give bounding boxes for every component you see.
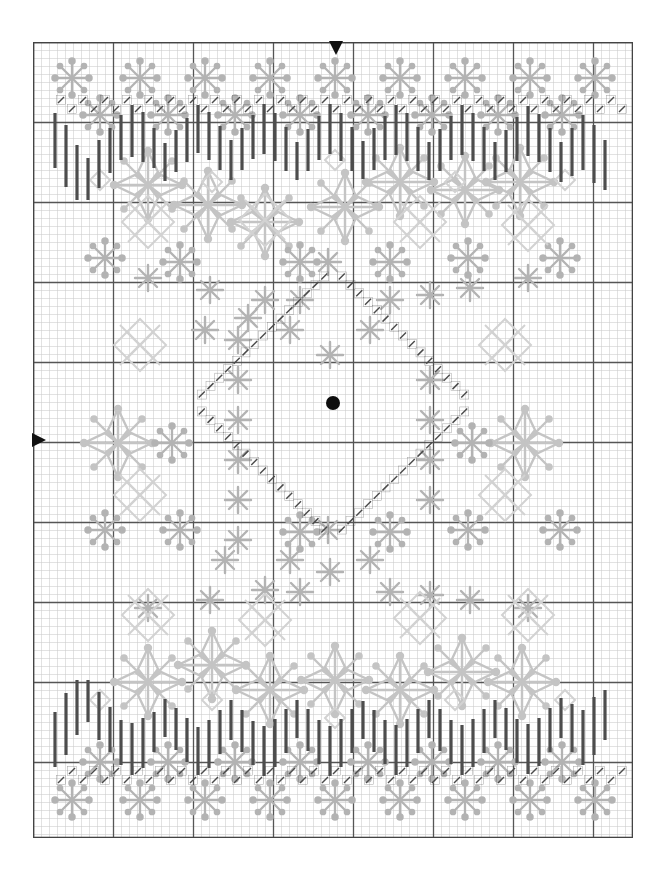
motif	[277, 317, 303, 343]
motif	[510, 780, 549, 819]
motif	[357, 547, 383, 573]
motif	[171, 168, 245, 242]
motif	[357, 317, 383, 343]
motif	[575, 780, 614, 819]
motif	[488, 406, 562, 480]
motif	[298, 643, 372, 717]
motif	[225, 487, 251, 513]
motif	[540, 510, 579, 549]
motif	[370, 512, 409, 551]
motif	[280, 512, 319, 551]
motif	[575, 58, 614, 97]
motif	[542, 95, 581, 134]
motif	[380, 58, 419, 97]
motif	[81, 406, 155, 480]
motif	[515, 265, 541, 291]
motif	[152, 423, 191, 462]
motif	[250, 780, 289, 819]
motif	[160, 510, 199, 549]
motif	[197, 277, 223, 303]
motif	[452, 423, 491, 462]
motif	[417, 447, 443, 473]
motif	[85, 510, 124, 549]
motif	[52, 58, 91, 97]
motif	[225, 367, 251, 393]
motif	[448, 238, 487, 277]
motif	[315, 249, 341, 275]
motif	[80, 95, 119, 134]
motif	[377, 579, 403, 605]
motif	[111, 645, 185, 719]
motif	[197, 587, 223, 613]
motif	[287, 579, 313, 605]
motif	[85, 238, 124, 277]
motif	[370, 242, 409, 281]
motif	[250, 58, 289, 97]
motif	[417, 367, 443, 393]
stitch-chart-svg: #g-bigflake path,#g-diamondcluster path,…	[33, 42, 633, 838]
motif	[225, 527, 251, 553]
motif	[225, 447, 251, 473]
motif	[277, 547, 303, 573]
motif	[225, 407, 251, 433]
motif	[417, 487, 443, 513]
motif	[185, 58, 224, 97]
motif	[252, 577, 278, 603]
motif	[315, 58, 354, 97]
motif	[457, 275, 483, 301]
motif	[317, 342, 343, 368]
motif	[417, 282, 443, 308]
motif	[457, 587, 483, 613]
motif	[135, 265, 161, 291]
motif	[445, 58, 484, 97]
motif	[315, 780, 354, 819]
motif	[228, 185, 302, 259]
motif	[317, 559, 343, 585]
motif	[235, 305, 261, 331]
motif	[380, 780, 419, 819]
chart-page: #g-bigflake path,#g-diamondcluster path,…	[0, 0, 666, 877]
motif	[417, 582, 443, 608]
motif	[160, 242, 199, 281]
motif	[52, 780, 91, 819]
motif	[212, 547, 238, 573]
stitch-chart-canvas: #g-bigflake path,#g-diamondcluster path,…	[33, 42, 633, 838]
motif	[510, 58, 549, 97]
motif	[448, 510, 487, 549]
motif	[185, 780, 224, 819]
motif	[192, 317, 218, 343]
motif	[120, 780, 159, 819]
motif	[445, 780, 484, 819]
motif	[417, 407, 443, 433]
motif	[280, 242, 319, 281]
motif	[120, 58, 159, 97]
motif	[377, 287, 403, 313]
